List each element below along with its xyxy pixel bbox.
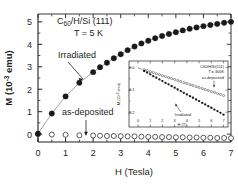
- inset-data-point-as-deposited: [168, 77, 170, 79]
- data-point-irradiated: [118, 52, 123, 57]
- inset-data-point-irradiated: [189, 95, 191, 97]
- inset-data-point-irradiated: [216, 110, 218, 112]
- inset-data-point-irradiated: [183, 92, 185, 94]
- inset-data-point-as-deposited: [186, 82, 188, 84]
- inset-y-tick: -0.1: [128, 87, 135, 92]
- main-y-tick-labels: 012345: [27, 17, 32, 139]
- data-point-irradiated: [187, 26, 192, 31]
- plot-title-line2: T = 5 K: [74, 28, 103, 38]
- inset-data-point-as-deposited: [161, 75, 163, 77]
- main-x-tick: 7: [228, 148, 233, 158]
- inset-data-point-irradiated: [161, 80, 163, 82]
- main-x-tick: 1: [63, 148, 68, 158]
- main-y-tick: 2: [27, 85, 32, 95]
- inset-data-point-as-deposited: [189, 84, 191, 86]
- main-x-tick-labels: 01234567: [35, 148, 233, 158]
- main-x-tick: 4: [146, 148, 151, 158]
- main-x-tick: 3: [118, 148, 123, 158]
- data-point-as-deposited: [153, 134, 158, 139]
- data-point-irradiated: [180, 28, 185, 33]
- main-y-tick: 5: [27, 17, 32, 27]
- inset-data-point-irradiated: [213, 108, 215, 110]
- inset-data-point-irradiated: [210, 107, 212, 109]
- data-point-as-deposited: [111, 133, 116, 138]
- data-point-irradiated: [77, 80, 82, 85]
- data-point-as-deposited: [63, 132, 68, 137]
- data-point-as-deposited: [77, 133, 82, 138]
- main-x-axis-label: H (Tesla): [115, 166, 153, 177]
- inset-x-tick: 5: [198, 118, 200, 123]
- inset-data-point-as-deposited: [149, 71, 151, 73]
- inset-data-point-as-deposited: [195, 86, 197, 88]
- svg-text:M (10-3 emu): M (10-3 emu): [3, 50, 14, 105]
- inset-data-point-irradiated: [198, 100, 200, 102]
- data-point-irradiated: [215, 21, 220, 26]
- inset-data-point-irradiated: [180, 90, 182, 92]
- inset-y-tick: 0.0: [129, 65, 135, 70]
- main-x-tick: 6: [201, 148, 206, 158]
- inset-data-point-as-deposited: [207, 89, 209, 91]
- inset-panel: 01234567 0.0-0.1-0.2 M (10-3 emu) H (T) …: [116, 61, 229, 127]
- inset-title-line2: T = 300K: [208, 69, 224, 74]
- data-point-irradiated: [63, 94, 68, 99]
- data-point-irradiated: [152, 36, 157, 41]
- inset-data-point-irradiated: [186, 93, 188, 95]
- data-point-as-deposited: [146, 134, 151, 139]
- data-point-as-deposited: [194, 135, 199, 140]
- data-point-as-deposited: [187, 135, 192, 140]
- inset-data-point-as-deposited: [201, 88, 203, 90]
- inset-data-point-as-deposited: [155, 73, 157, 75]
- inset-data-point-irradiated: [201, 102, 203, 104]
- asdeposited-arrowhead: [84, 132, 88, 136]
- data-point-as-deposited: [118, 134, 123, 139]
- inset-data-point-irradiated: [167, 83, 169, 85]
- inset-data-point-irradiated: [155, 77, 157, 79]
- data-point-irradiated: [125, 47, 130, 52]
- inset-data-point-as-deposited: [177, 80, 179, 82]
- inset-data-point-as-deposited: [213, 91, 215, 93]
- data-point-as-deposited: [180, 135, 185, 140]
- data-point-irradiated: [90, 69, 95, 74]
- inset-x-axis-label: H (T): [178, 122, 188, 127]
- data-point-irradiated: [228, 19, 233, 24]
- inset-data-point-irradiated: [219, 112, 221, 114]
- inset-data-point-as-deposited: [198, 86, 200, 88]
- main-x-tick: 2: [91, 148, 96, 158]
- data-point-irradiated: [194, 25, 199, 30]
- svg-text:M (10-3 emu): M (10-3 emu): [116, 82, 122, 105]
- inset-data-point-irradiated: [158, 78, 160, 80]
- data-point-as-deposited: [215, 135, 220, 140]
- inset-label-as-deposited: as-deposited: [202, 75, 224, 80]
- inset-x-tick: 6: [210, 118, 212, 123]
- main-x-tick: 5: [173, 148, 178, 158]
- inset-data-point-irradiated: [192, 97, 194, 99]
- inset-data-point-irradiated: [152, 75, 154, 77]
- data-point-as-deposited: [139, 134, 144, 139]
- data-point-as-deposited: [201, 135, 206, 140]
- annotation-irradiated: Irradiated: [58, 50, 96, 60]
- figure-panel: 01234567 012345 M (10-3 emu) H (Tesla) C…: [0, 0, 238, 187]
- data-point-irradiated: [173, 29, 178, 34]
- data-point-irradiated: [159, 33, 164, 38]
- data-point-as-deposited: [222, 135, 227, 140]
- inset-data-point-as-deposited: [223, 94, 225, 96]
- inset-data-point-irradiated: [174, 87, 176, 89]
- main-y-axis-label: M (10-3 emu): [3, 50, 14, 105]
- data-point-as-deposited: [125, 134, 130, 139]
- data-point-irradiated: [208, 22, 213, 27]
- data-point-irradiated: [139, 41, 144, 46]
- irradiated-leader-line: [68, 62, 83, 79]
- inset-data-point-as-deposited: [152, 72, 154, 74]
- inset-y-axis-label: M (10-3 emu): [116, 82, 122, 105]
- data-point-irradiated: [49, 111, 54, 116]
- data-point-as-deposited: [91, 133, 96, 138]
- inset-data-point-as-deposited: [146, 70, 148, 72]
- inset-y-tick: -0.2: [128, 110, 135, 115]
- magnetization-plot: 01234567 012345 M (10-3 emu) H (Tesla) C…: [0, 0, 238, 187]
- inset-x-tick: 7: [222, 118, 224, 123]
- main-y-tick: 0: [27, 130, 32, 140]
- inset-data-point-irradiated: [195, 98, 197, 100]
- main-y-tick: 1: [27, 107, 32, 117]
- inset-data-point-as-deposited: [164, 76, 166, 78]
- annotation-as-deposited: as-deposited: [62, 107, 114, 117]
